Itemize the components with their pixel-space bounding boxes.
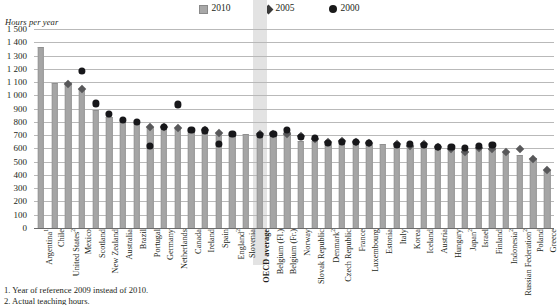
x-axis-label-belgium-fr[interactable]: Belgium (Fr.) — [290, 229, 298, 274]
bar-2010[interactable] — [229, 134, 235, 228]
x-axis-label-slovenia[interactable]: Slovenia — [249, 229, 257, 258]
bar-column[interactable] — [226, 29, 240, 228]
bar-column[interactable] — [157, 29, 171, 228]
bar-2010[interactable] — [476, 149, 482, 228]
bar-2010[interactable] — [243, 134, 249, 228]
x-axis-label-france[interactable]: France — [359, 229, 367, 252]
circle-icon-2000[interactable] — [174, 101, 181, 108]
bar-column[interactable] — [417, 29, 431, 228]
x-axis-label-japan[interactable]: Japan2 — [468, 229, 478, 251]
x-axis-label-russian-federation[interactable]: Russian Federation2 — [523, 229, 533, 296]
bar-2010[interactable] — [421, 145, 427, 228]
circle-icon-2000[interactable] — [78, 68, 85, 75]
bar-column[interactable] — [321, 29, 335, 228]
bar-column[interactable] — [431, 29, 445, 228]
x-axis-label-new-zealand[interactable]: New Zealand — [112, 229, 120, 273]
legend-item-2005[interactable]: 2005 — [265, 4, 295, 14]
x-axis-label-slovak-republic[interactable]: Slovak Republic — [318, 229, 326, 284]
bar-2010[interactable] — [161, 127, 167, 228]
bar-2010[interactable] — [202, 131, 208, 229]
bar-column[interactable] — [102, 29, 116, 228]
x-axis-label-portugal[interactable]: Portugal — [154, 229, 162, 257]
bar-2010[interactable] — [530, 158, 536, 228]
x-axis-label-mexico[interactable]: Mexico — [85, 229, 93, 254]
bar-column[interactable] — [294, 29, 308, 228]
bar-column[interactable] — [403, 29, 417, 228]
bar-2010[interactable] — [489, 149, 495, 228]
bar-column[interactable] — [513, 29, 527, 228]
bar-2010[interactable] — [462, 148, 468, 228]
bar-2010[interactable] — [517, 155, 523, 228]
bar-2010[interactable] — [51, 83, 57, 228]
x-axis-label-korea[interactable]: Korea — [414, 229, 422, 249]
bar-column[interactable] — [212, 29, 226, 228]
bar-2010[interactable] — [120, 120, 126, 228]
bar-2010[interactable] — [544, 170, 550, 228]
x-axis-label-argentina[interactable]: Argentina1 — [44, 229, 54, 265]
x-axis-label-brazil[interactable]: Brazil — [140, 229, 148, 249]
x-axis-label-canada[interactable]: Canada — [195, 229, 203, 254]
bar-2010[interactable] — [366, 143, 372, 228]
bar-2010[interactable] — [270, 132, 276, 228]
bar-column[interactable] — [48, 29, 62, 228]
x-axis-label-indonesia[interactable]: Indonesia2 — [509, 229, 519, 264]
bar-2010[interactable] — [448, 148, 454, 228]
x-axis-label-england[interactable]: England2 — [236, 229, 246, 259]
bar-column[interactable] — [472, 29, 486, 228]
circle-icon-2000[interactable] — [297, 133, 304, 140]
bar-2010[interactable] — [38, 47, 44, 228]
bar-column[interactable] — [486, 29, 500, 228]
bar-2010[interactable] — [79, 89, 85, 228]
bar-column[interactable] — [61, 29, 75, 228]
x-axis-label-italy[interactable]: Italy — [400, 229, 408, 244]
x-axis-label-finland[interactable]: Finland — [496, 229, 504, 254]
bar-2010[interactable] — [92, 110, 98, 228]
x-axis-label-spain[interactable]: Spain — [222, 229, 230, 248]
bar-column[interactable] — [116, 29, 130, 228]
x-axis-label-luxembourg[interactable]: Luxembourg — [372, 229, 380, 272]
bar-column[interactable] — [458, 29, 472, 228]
x-axis-label-ireland[interactable]: Ireland — [208, 229, 216, 253]
bar-2010[interactable] — [325, 142, 331, 228]
bar-column[interactable] — [499, 29, 513, 228]
bar-2010[interactable] — [407, 146, 413, 228]
x-axis-label-oecd-average[interactable]: OECD average — [263, 229, 271, 283]
bar-2010[interactable] — [284, 132, 290, 228]
bar-column[interactable] — [335, 29, 349, 228]
bar-column[interactable] — [445, 29, 459, 228]
x-axis-label-norway[interactable]: Norway — [304, 229, 312, 256]
x-axis-label-austria[interactable]: Austria — [441, 229, 449, 253]
bar-2010[interactable] — [380, 144, 386, 228]
circle-icon-2000[interactable] — [92, 100, 99, 107]
bar-2010[interactable] — [298, 141, 304, 228]
bar-column[interactable] — [390, 29, 404, 228]
bar-column[interactable] — [267, 29, 281, 228]
x-axis-label-greece[interactable]: Greece — [550, 229, 558, 253]
x-axis-label-belgium-fl[interactable]: Belgium (Fl.) — [277, 229, 285, 274]
bar-column[interactable] — [171, 29, 185, 228]
bar-2010[interactable] — [257, 135, 263, 228]
bar-2010[interactable] — [503, 152, 509, 228]
bar-column[interactable] — [143, 29, 157, 228]
bar-2010[interactable] — [65, 82, 71, 228]
bar-2010[interactable] — [133, 122, 139, 228]
bar-column[interactable] — [75, 29, 89, 228]
bar-2010[interactable] — [393, 145, 399, 228]
bar-2010[interactable] — [106, 117, 112, 228]
bar-column[interactable] — [280, 29, 294, 228]
x-axis-label-hungary[interactable]: Hungary — [455, 229, 463, 258]
x-axis-label-scotland[interactable]: Scotland — [99, 229, 107, 258]
bar-2010[interactable] — [352, 143, 358, 228]
bar-column[interactable] — [130, 29, 144, 228]
bar-2010[interactable] — [339, 142, 345, 228]
x-axis-label-czech-republic[interactable]: Czech Republic — [345, 229, 353, 282]
bar-column[interactable] — [376, 29, 390, 228]
x-axis-label-germany[interactable]: Germany — [167, 229, 175, 260]
bar-column[interactable] — [185, 29, 199, 228]
bar-column[interactable] — [308, 29, 322, 228]
bar-column[interactable] — [34, 29, 48, 228]
legend-item-2010[interactable]: 2010 — [199, 4, 231, 14]
diamond-icon-2005[interactable] — [515, 145, 524, 154]
bar-column[interactable] — [362, 29, 376, 228]
x-axis-label-israel[interactable]: Israel — [482, 229, 490, 247]
